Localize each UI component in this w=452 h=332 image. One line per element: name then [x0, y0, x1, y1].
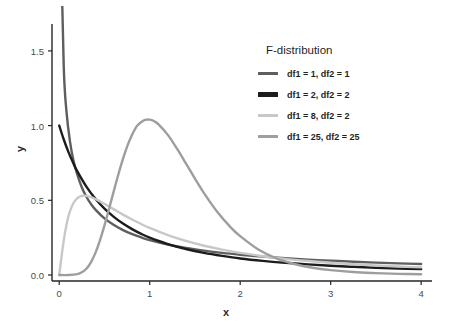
x-tick-label: 1 [147, 288, 152, 299]
y-tick-label: 1.5 [8, 45, 44, 56]
legend-item-label: df1 = 8, df2 = 2 [287, 111, 350, 121]
legend-entries: df1 = 1, df2 = 1df1 = 2, df2 = 2df1 = 8,… [258, 65, 438, 145]
legend-item[interactable]: df1 = 2, df2 = 2 [258, 86, 438, 103]
legend-line-swatch [258, 114, 278, 118]
legend-item[interactable]: df1 = 25, df2 = 25 [258, 128, 438, 145]
legend-item-label: df1 = 2, df2 = 2 [287, 90, 350, 100]
legend-title: F-distribution [266, 44, 438, 56]
legend-item[interactable]: df1 = 8, df2 = 2 [258, 107, 438, 124]
x-tick-label: 3 [328, 288, 333, 299]
legend: F-distribution df1 = 1, df2 = 1df1 = 2, … [258, 44, 438, 149]
legend-line-swatch [258, 72, 278, 76]
x-tick-label: 4 [418, 288, 423, 299]
y-tick-label: 0.5 [8, 195, 44, 206]
x-tick-label: 2 [238, 288, 243, 299]
legend-item-label: df1 = 1, df2 = 1 [287, 69, 350, 79]
x-tick-label: 0 [57, 288, 62, 299]
f-distribution-chart: 0.00.51.01.5 01234 x y F-distribution df… [0, 0, 452, 332]
legend-line-swatch [258, 92, 278, 97]
y-tick-label: 0.0 [8, 270, 44, 281]
legend-item-label: df1 = 25, df2 = 25 [287, 132, 360, 142]
y-axis-title: y [14, 146, 26, 152]
x-axis-title: x [0, 306, 452, 318]
legend-line-swatch [258, 135, 278, 139]
y-tick-label: 1.0 [8, 120, 44, 131]
legend-item[interactable]: df1 = 1, df2 = 1 [258, 65, 438, 82]
